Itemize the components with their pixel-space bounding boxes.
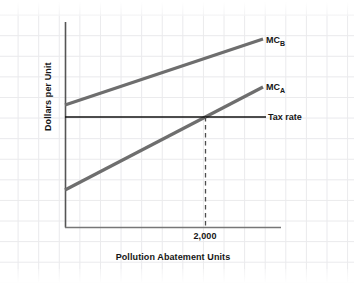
x-axis-title: Pollution Abatement Units	[65, 252, 281, 262]
series-label-mc-a-subscript: A	[280, 87, 285, 94]
series-label-mc-a: MCA	[266, 82, 285, 92]
series-label-mc-b-subscript: B	[280, 40, 285, 47]
series-label-tax-rate: Tax rate	[268, 112, 302, 122]
series-line-mc-a	[65, 87, 263, 190]
plot-area	[0, 0, 354, 287]
series-label-mc-b: MCB	[266, 35, 285, 45]
series-label-mc-a-base: MC	[266, 82, 280, 92]
pollution-abatement-chart: Dollars per Unit Pollution Abatement Uni…	[0, 0, 354, 287]
x-tick-label-2000: 2,000	[165, 231, 245, 241]
series-line-mc-b	[65, 39, 263, 105]
y-axis-title: Dollars per Unit	[43, 71, 53, 131]
series-label-mc-b-base: MC	[266, 35, 280, 45]
